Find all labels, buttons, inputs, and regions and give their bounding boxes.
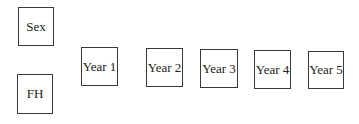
node-year-5: Year 5 [308,51,344,89]
node-label: Year 3 [202,61,236,77]
node-label: FH [27,86,44,102]
node-fh: FH [17,74,53,114]
node-year-2: Year 2 [146,48,183,87]
node-label: Year 4 [256,62,290,78]
node-year-3: Year 3 [200,49,238,88]
node-label: Year 1 [83,59,117,75]
node-label: Year 2 [148,60,182,76]
node-label: Sex [26,19,46,35]
node-sex: Sex [18,7,54,46]
node-label: Year 5 [309,62,343,78]
node-year-1: Year 1 [81,47,118,86]
node-year-4: Year 4 [254,50,291,89]
